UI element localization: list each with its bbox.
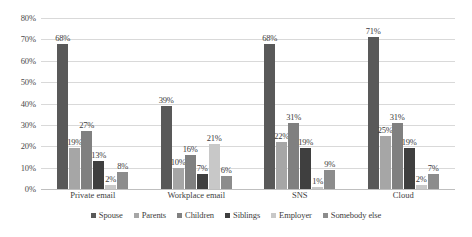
bar-value-label: 31% (286, 113, 301, 122)
bar-siblings[interactable]: 19% (300, 18, 311, 189)
plot-area: 68%19%27%13%2%8%39%10%16%7%21%6%68%22%31… (41, 18, 455, 189)
bar-employer[interactable]: 2% (105, 18, 116, 189)
bar-siblings[interactable]: 7% (197, 18, 208, 189)
bar-value-label: 7% (197, 164, 208, 173)
bar-rect (93, 161, 104, 189)
bar-group-bars: 39%10%16%7%21%6% (145, 18, 249, 189)
bar-value-label: 19% (67, 138, 82, 147)
bar-group: 39%10%16%7%21%6% (145, 18, 249, 189)
legend-label: Somebody else (331, 211, 381, 220)
bar-somebody-else[interactable]: 8% (117, 18, 128, 189)
bar-children[interactable]: 31% (288, 18, 299, 189)
bar-value-label: 9% (324, 160, 335, 169)
bar-rect (209, 144, 220, 189)
y-axis-tick-label: 60% (21, 57, 36, 66)
bar-rect (300, 148, 311, 189)
legend-item-somebody-else[interactable]: Somebody else (323, 211, 381, 220)
bar-parents[interactable]: 19% (69, 18, 80, 189)
bar-value-label: 39% (159, 96, 174, 105)
legend-swatch-icon (323, 213, 328, 218)
legend-label: Parents (142, 211, 166, 220)
bar-somebody-else[interactable]: 6% (221, 18, 232, 189)
y-axis-tick-label: 30% (21, 121, 36, 130)
bar-rect (288, 123, 299, 189)
legend-item-parents[interactable]: Parents (134, 211, 166, 220)
bar-value-label: 21% (207, 134, 222, 143)
bar-rect (173, 168, 184, 189)
legend-item-children[interactable]: Children (177, 211, 214, 220)
bar-somebody-else[interactable]: 9% (324, 18, 335, 189)
bar-value-label: 68% (262, 34, 277, 43)
bar-rect (276, 142, 287, 189)
bar-rect (117, 172, 128, 189)
bar-spouse[interactable]: 68% (57, 18, 68, 189)
bar-spouse[interactable]: 68% (264, 18, 275, 189)
bar-rect (416, 185, 427, 189)
bar-rect (324, 170, 335, 189)
y-axis-tick-label: 10% (21, 163, 36, 172)
bar-value-label: 68% (55, 34, 70, 43)
legend-item-spouse[interactable]: Spouse (91, 211, 123, 220)
bar-group: 68%19%27%13%2%8% (41, 18, 145, 189)
bar-group-bars: 68%19%27%13%2%8% (41, 18, 145, 189)
chart-legend: SpouseParentsChildrenSiblingsEmployerSom… (0, 211, 472, 220)
bar-rect (368, 37, 379, 189)
bar-value-label: 6% (221, 166, 232, 175)
bar-rect (312, 187, 323, 189)
y-axis-tick-label: 20% (21, 142, 36, 151)
y-axis-tick-label: 70% (21, 35, 36, 44)
bar-value-label: 16% (183, 145, 198, 154)
bar-rect (57, 44, 68, 189)
bar-employer[interactable]: 21% (209, 18, 220, 189)
bar-siblings[interactable]: 13% (93, 18, 104, 189)
legend-item-siblings[interactable]: Siblings (225, 211, 260, 220)
bar-value-label: 1% (312, 177, 323, 186)
y-axis: 0%10%20%30%40%50%60%70%80% (0, 18, 36, 189)
bar-rect (380, 136, 391, 189)
bar-parents[interactable]: 22% (276, 18, 287, 189)
bar-rect (69, 148, 80, 189)
bar-children[interactable]: 16% (185, 18, 196, 189)
bar-employer[interactable]: 2% (416, 18, 427, 189)
legend-swatch-icon (271, 213, 276, 218)
bar-value-label: 2% (416, 175, 427, 184)
legend-swatch-icon (177, 213, 182, 218)
bar-somebody-else[interactable]: 7% (428, 18, 439, 189)
bar-group-bars: 71%25%31%19%2%7% (352, 18, 456, 189)
x-axis: Private emailWorkplace emailSNSCloud (41, 191, 455, 205)
bar-value-label: 13% (91, 151, 106, 160)
bar-value-label: 19% (402, 138, 417, 147)
bar-rect (221, 176, 232, 189)
x-axis-tick-label: Workplace email (167, 191, 225, 200)
bar-group: 71%25%31%19%2%7% (352, 18, 456, 189)
legend-label: Employer (279, 211, 312, 220)
bar-group-bars: 68%22%31%19%1%9% (248, 18, 352, 189)
x-axis-tick-label: Cloud (393, 191, 414, 200)
bar-value-label: 10% (171, 158, 186, 167)
bar-value-label: 8% (117, 162, 128, 171)
bar-value-label: 25% (378, 126, 393, 135)
bar-spouse[interactable]: 71% (368, 18, 379, 189)
legend-item-employer[interactable]: Employer (271, 211, 312, 220)
bar-children[interactable]: 31% (392, 18, 403, 189)
bar-children[interactable]: 27% (81, 18, 92, 189)
bar-rect (161, 106, 172, 189)
bar-employer[interactable]: 1% (312, 18, 323, 189)
bar-siblings[interactable]: 19% (404, 18, 415, 189)
bar-chart: 0%10%20%30%40%50%60%70%80% 68%19%27%13%2… (0, 0, 472, 237)
bar-group: 68%22%31%19%1%9% (248, 18, 352, 189)
legend-label: Children (185, 211, 214, 220)
x-axis-tick-label: SNS (292, 191, 308, 200)
bar-value-label: 2% (105, 175, 116, 184)
legend-label: Spouse (99, 211, 123, 220)
bar-rect (185, 155, 196, 189)
bar-parents[interactable]: 10% (173, 18, 184, 189)
bar-parents[interactable]: 25% (380, 18, 391, 189)
bar-value-label: 27% (79, 121, 94, 130)
legend-label: Siblings (233, 211, 260, 220)
bar-rect (264, 44, 275, 189)
bar-value-label: 22% (274, 132, 289, 141)
bar-value-label: 31% (390, 113, 405, 122)
legend-swatch-icon (91, 213, 96, 218)
y-axis-tick-label: 40% (21, 99, 36, 108)
